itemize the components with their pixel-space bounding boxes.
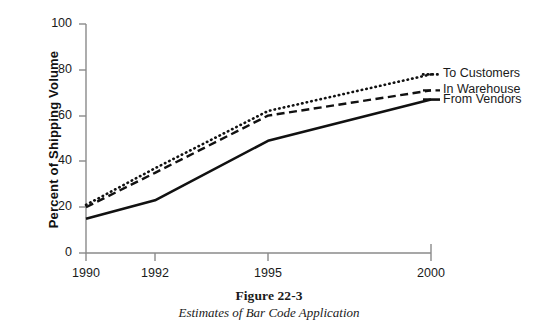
y-tick-label: 100 <box>38 16 72 30</box>
series-group <box>86 74 431 218</box>
x-tick-label: 1990 <box>56 266 116 280</box>
x-tick-label: 2000 <box>401 266 461 280</box>
x-tick-label: 1995 <box>238 266 298 280</box>
series-line-from-vendors <box>86 100 431 219</box>
y-tick-label: 40 <box>38 153 72 167</box>
figure-caption-title: Figure 22-3 <box>0 288 538 304</box>
legend-line-samples <box>423 74 440 99</box>
y-tick-label: 0 <box>38 245 72 259</box>
series-line-in-warehouse <box>86 90 431 207</box>
figure-container: Percent of Shipping Volume 020406080100 … <box>0 0 538 329</box>
y-tick-label: 20 <box>38 199 72 213</box>
series-line-to-customers <box>86 74 431 205</box>
x-tick-label: 1992 <box>125 266 185 280</box>
y-tick-label: 60 <box>38 108 72 122</box>
legend-item-to-customers: To Customers <box>443 66 520 80</box>
y-axis-title: Percent of Shipping Volume <box>46 25 61 255</box>
figure-caption-subtitle: Estimates of Bar Code Application <box>0 305 538 321</box>
axis-group <box>79 24 431 261</box>
y-tick-label: 80 <box>38 62 72 76</box>
legend-item-from-vendors: From Vendors <box>443 92 522 106</box>
